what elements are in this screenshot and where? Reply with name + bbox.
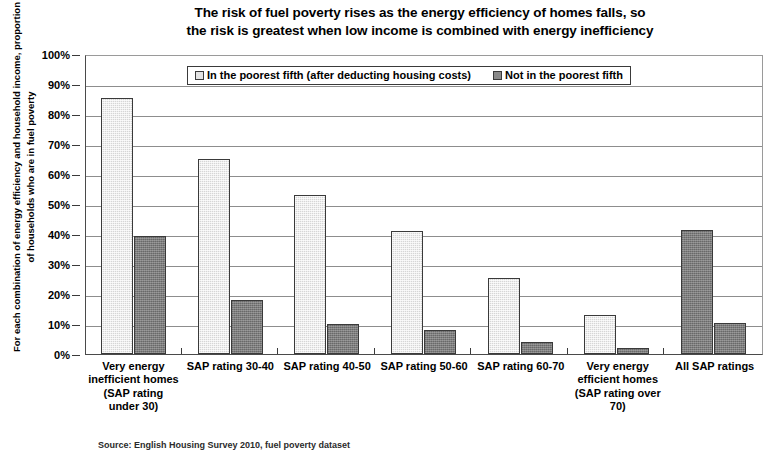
x-axis-label: SAP rating 30-40: [182, 360, 279, 414]
y-axis-label: 90%: [48, 79, 70, 91]
y-axis-label: 20%: [48, 289, 70, 301]
y-axis-tick: [72, 355, 80, 356]
y-axis-tick: [72, 205, 80, 206]
bar[interactable]: [521, 342, 553, 354]
bar[interactable]: [424, 330, 456, 354]
bar[interactable]: [714, 323, 746, 355]
bar[interactable]: [101, 98, 133, 355]
legend-label: In the poorest fifth (after deducting ho…: [207, 69, 471, 81]
bar-group: [472, 56, 569, 354]
y-axis-tick: [72, 325, 80, 326]
y-axis-label: 30%: [48, 259, 70, 271]
y-axis-tick: [72, 265, 80, 266]
x-axis-tick: [567, 348, 568, 354]
chart-title-line-2: the risk is greatest when low income is …: [120, 22, 720, 40]
chart-legend: In the poorest fifth (after deducting ho…: [187, 66, 631, 85]
x-axis-tick: [663, 348, 664, 354]
bar[interactable]: [681, 230, 713, 355]
x-axis-label: SAP rating 40-50: [279, 360, 376, 414]
y-axis-label: 50%: [48, 199, 70, 211]
y-axis-label: 0%: [54, 349, 70, 361]
bar-group: [279, 56, 376, 354]
x-axis-tick: [277, 348, 278, 354]
legend-item[interactable]: In the poorest fifth (after deducting ho…: [195, 69, 471, 81]
x-axis-tick: [374, 348, 375, 354]
chart-title: The risk of fuel poverty rises as the en…: [120, 4, 720, 40]
x-axis-tick: [470, 348, 471, 354]
y-axis-tick: [72, 55, 80, 56]
y-axis-tick: [72, 235, 80, 236]
bar[interactable]: [391, 231, 423, 354]
y-axis-label: 40%: [48, 229, 70, 241]
bar[interactable]: [294, 195, 326, 354]
bar[interactable]: [488, 278, 520, 355]
bar-group: [183, 56, 280, 354]
x-axis-label: All SAP ratings: [666, 360, 763, 414]
legend-item[interactable]: Not in the poorest fifth: [493, 69, 623, 81]
bar[interactable]: [584, 315, 616, 354]
legend-label: Not in the poorest fifth: [505, 69, 623, 81]
bar-group: [376, 56, 473, 354]
plot-area: [85, 55, 763, 355]
y-axis-tick: [72, 145, 80, 146]
y-axis-label: 60%: [48, 169, 70, 181]
bar[interactable]: [198, 159, 230, 354]
chart-source-note: Source: English Housing Survey 2010, fue…: [98, 440, 758, 450]
x-axis-label: SAP rating 60-70: [472, 360, 569, 414]
x-axis-tick-labels: Very energy inefficient homes (SAP ratin…: [85, 360, 763, 414]
legend-swatch-icon: [195, 71, 204, 80]
bar-groups: [86, 56, 762, 354]
y-axis-tick-labels: 100%90%80%70%60%50%40%30%20%10%0%: [0, 55, 80, 355]
x-axis-tick: [181, 348, 182, 354]
y-axis-tick: [72, 295, 80, 296]
y-axis-label: 80%: [48, 109, 70, 121]
bar[interactable]: [617, 348, 649, 354]
y-axis-label: 100%: [42, 49, 70, 61]
chart-title-line-1: The risk of fuel poverty rises as the en…: [120, 4, 720, 22]
bar[interactable]: [231, 300, 263, 354]
y-axis-label: 70%: [48, 139, 70, 151]
x-axis-label: SAP rating 50-60: [376, 360, 473, 414]
y-axis-tick: [72, 85, 80, 86]
legend-swatch-icon: [493, 71, 502, 80]
x-axis-label: Very energy efficient homes (SAP rating …: [569, 360, 666, 414]
y-axis-label: 10%: [48, 319, 70, 331]
y-axis-tick: [72, 115, 80, 116]
x-axis-label: Very energy inefficient homes (SAP ratin…: [85, 360, 182, 414]
bar[interactable]: [327, 324, 359, 354]
bar-group: [86, 56, 183, 354]
bar-group: [569, 56, 666, 354]
bar-group: [665, 56, 762, 354]
bar[interactable]: [134, 236, 166, 355]
y-axis-tick: [72, 175, 80, 176]
